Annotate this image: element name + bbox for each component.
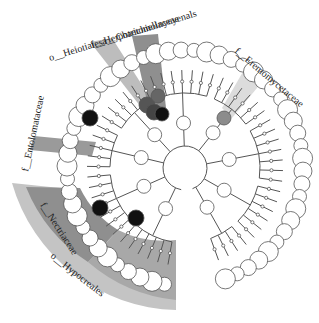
- branch-node: [217, 87, 220, 90]
- branch-node: [244, 228, 247, 231]
- branch-node: [159, 249, 162, 252]
- branch-node: [237, 234, 240, 237]
- branch-node: [199, 81, 202, 84]
- branch-node: [129, 99, 132, 102]
- branch-node: [142, 242, 145, 245]
- branch-node: [122, 106, 125, 109]
- branch-node: [181, 80, 184, 83]
- clade-node: [159, 202, 173, 216]
- biomarker-node: [217, 111, 231, 125]
- biomarker-node: [155, 107, 169, 121]
- branch-node: [190, 80, 193, 83]
- branch-node: [99, 146, 102, 149]
- branch-node: [226, 91, 229, 94]
- clade-node: [222, 152, 236, 166]
- biomarker-node: [82, 110, 98, 126]
- biomarker-node: [151, 89, 165, 103]
- clade-label: f__Entolomataceae: [19, 94, 46, 172]
- clade-node: [217, 183, 231, 197]
- branch-node: [222, 244, 225, 247]
- clade-node: [200, 200, 214, 214]
- branch-node: [248, 108, 251, 111]
- branch-node: [259, 124, 262, 127]
- branch-node: [127, 232, 130, 235]
- clade-node: [148, 128, 162, 142]
- branch-node: [144, 89, 147, 92]
- branch-node: [213, 248, 216, 251]
- branch-node: [270, 169, 273, 172]
- biomarker-node: [92, 200, 108, 216]
- branch-node: [102, 137, 105, 140]
- leaf-node: [215, 269, 235, 289]
- branch-node: [97, 174, 100, 177]
- branch-node: [98, 156, 101, 159]
- branch-node: [171, 81, 174, 84]
- branch-node: [265, 196, 268, 199]
- branch-node: [267, 187, 270, 190]
- branch-node: [97, 165, 100, 168]
- branch-node: [261, 205, 264, 208]
- branch-node: [256, 213, 259, 216]
- branch-node: [208, 84, 211, 87]
- branch-node: [162, 83, 165, 86]
- branch-node: [230, 239, 233, 242]
- branch-node: [106, 129, 109, 132]
- branch-node: [168, 252, 171, 255]
- branch-node: [270, 159, 273, 162]
- branch-node: [134, 237, 137, 240]
- branch-node: [263, 132, 266, 135]
- branch-node: [101, 193, 104, 196]
- clade-node: [137, 179, 151, 193]
- cladogram: o__Heiotiaiesa__Chaetomoinyeyenalsf__Her…: [0, 0, 319, 323]
- branch-node: [136, 94, 139, 97]
- branch-node: [269, 178, 272, 181]
- biomarker-node: [128, 210, 144, 226]
- branch-node: [110, 120, 113, 123]
- branch-node: [234, 96, 237, 99]
- branch-node: [268, 150, 271, 153]
- branch-node: [109, 210, 112, 213]
- branch-node: [251, 221, 254, 224]
- branch-node: [116, 113, 119, 116]
- branch-node: [266, 141, 269, 144]
- branch-node: [114, 218, 117, 221]
- clade-node: [177, 116, 191, 130]
- branch-node: [99, 184, 102, 187]
- branch-node: [120, 225, 123, 228]
- branch-node: [241, 102, 244, 105]
- clade-node: [206, 126, 220, 140]
- clade-node: [134, 151, 148, 165]
- branch-node: [150, 246, 153, 249]
- branch-node: [153, 85, 156, 88]
- branch-node: [254, 116, 257, 119]
